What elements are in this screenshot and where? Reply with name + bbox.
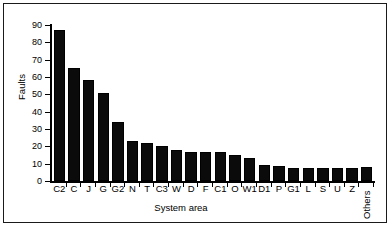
x-axis-tick-label: W1 — [243, 184, 257, 194]
y-axis-tick — [45, 112, 51, 113]
bar — [141, 143, 152, 181]
bar — [98, 93, 109, 181]
bar — [156, 146, 167, 181]
y-axis-tick-label: 90 — [22, 21, 42, 30]
x-axis-tick-label: C3 — [156, 184, 168, 194]
x-axis-tick-label: T — [144, 184, 150, 194]
x-axis-tick-label: Z — [349, 184, 355, 194]
x-axis-tick-label: P — [276, 184, 282, 194]
x-label-slot: S — [316, 184, 331, 229]
y-axis-tick — [45, 25, 51, 26]
bar-slot — [169, 25, 184, 181]
y-axis-tick-label: 30 — [22, 125, 42, 134]
bar-slot — [286, 25, 301, 181]
x-axis-tick-label: D — [188, 184, 195, 194]
bar-slot — [345, 25, 360, 181]
x-axis-tick-label: U — [334, 184, 341, 194]
bar-slot — [140, 25, 155, 181]
bar — [317, 168, 328, 181]
bar-series — [52, 25, 374, 181]
bar — [185, 152, 196, 181]
bar — [127, 141, 138, 181]
y-axis-tick-label: 20 — [22, 142, 42, 151]
bar — [112, 122, 123, 181]
bar-slot — [301, 25, 316, 181]
x-axis-tick-label: L — [306, 184, 311, 194]
y-axis-tick — [45, 181, 51, 182]
y-axis-tick — [45, 94, 51, 95]
x-axis-tick-label: G1 — [287, 184, 300, 194]
bar-slot — [198, 25, 213, 181]
x-axis-tick-label: N — [129, 184, 136, 194]
bar — [54, 30, 65, 181]
bar-slot — [359, 25, 374, 181]
bar — [361, 167, 372, 181]
bar — [171, 150, 182, 181]
x-axis-tick-label: G — [100, 184, 107, 194]
bar — [288, 168, 299, 181]
x-axis-tick-label: C2 — [53, 184, 65, 194]
bar-slot — [111, 25, 126, 181]
x-axis-tick-label: J — [86, 184, 91, 194]
bar-slot — [213, 25, 228, 181]
y-axis-tick-label: 10 — [22, 160, 42, 169]
bar-slot — [125, 25, 140, 181]
bar — [229, 155, 240, 181]
bar — [200, 152, 211, 181]
x-label-slot: Others — [359, 184, 374, 229]
bar-slot — [154, 25, 169, 181]
y-axis-tick — [45, 146, 51, 147]
bar — [303, 168, 314, 181]
bar — [244, 158, 255, 181]
y-axis-tick-label: 80 — [22, 38, 42, 47]
bar-slot — [257, 25, 272, 181]
y-axis-tick-label: 0 — [22, 177, 42, 186]
bar — [83, 80, 94, 181]
x-axis-tick-label: F — [203, 184, 209, 194]
x-axis-tick-label: D1 — [258, 184, 270, 194]
figure-frame: 0102030405060708090 Faults C2CJGG2NTC3WD… — [3, 3, 387, 223]
bar-slot — [52, 25, 67, 181]
bar-slot — [228, 25, 243, 181]
bar-slot — [184, 25, 199, 181]
y-axis-title: Faults — [17, 62, 27, 112]
y-axis-tick — [45, 77, 51, 78]
y-axis-tick — [45, 42, 51, 43]
bar-slot — [242, 25, 257, 181]
bar — [215, 152, 226, 181]
bar-slot — [96, 25, 111, 181]
bar — [273, 166, 284, 181]
bar — [332, 168, 343, 181]
x-axis-title: System area — [51, 203, 311, 213]
x-axis-tick-label: G2 — [112, 184, 125, 194]
y-axis-tick — [45, 60, 51, 61]
bar-slot — [330, 25, 345, 181]
bar — [68, 68, 79, 181]
bar-slot — [67, 25, 82, 181]
x-label-slot: Z — [345, 184, 360, 229]
bar-slot — [316, 25, 331, 181]
x-axis-tick-label: S — [320, 184, 326, 194]
y-axis-tick — [45, 129, 51, 130]
bar-slot — [81, 25, 96, 181]
bar — [346, 168, 357, 181]
bar — [259, 165, 270, 181]
bar-slot — [272, 25, 287, 181]
x-axis-tick-label: C — [71, 184, 78, 194]
x-label-slot: U — [330, 184, 345, 229]
x-axis-tick-label: W — [172, 184, 181, 194]
x-axis-tick-label: O — [231, 184, 238, 194]
x-axis-tick-label: C1 — [214, 184, 226, 194]
x-axis-tick-label: Others — [362, 191, 372, 219]
y-axis-tick — [45, 164, 51, 165]
